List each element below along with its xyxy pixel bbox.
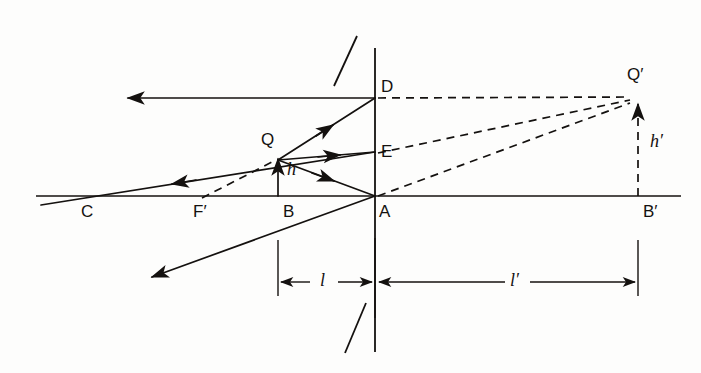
point-label-a: A [379, 203, 390, 220]
virtual-ray-a-to-qprime [378, 103, 630, 196]
optics-ray-diagram-canvas [0, 0, 701, 373]
point-label-q-prime: Q′ [627, 66, 643, 83]
lens-hatch-top-icon [334, 36, 357, 86]
point-label-b: B [283, 203, 294, 220]
virtual-ray-e-to-qprime [378, 100, 630, 153]
point-label-d: D [381, 78, 393, 95]
point-label-c: C [81, 203, 93, 220]
point-label-b-prime: B′ [643, 203, 658, 220]
lens-hatch-bottom-icon [345, 303, 366, 353]
ray-q-to-e-arrow [318, 155, 340, 157]
point-label-e: E [381, 143, 392, 160]
measure-label-h-prime: h′ [650, 132, 663, 150]
virtual-ray-fprime-to-q [202, 161, 274, 198]
virtual-ray-d-to-qprime [378, 97, 630, 98]
measure-label-l: l [320, 271, 325, 289]
ray-e-to-c-arrow [172, 180, 196, 184]
measure-label-h: h [287, 160, 296, 178]
measure-label-l-prime: l′ [510, 271, 519, 289]
ray-diagram-figure: C F′ B Q A E D B′ Q′ h h′ l l′ [0, 0, 701, 373]
ray-q-to-d-arrow [316, 125, 333, 136]
ray-a-outgoing-downleft [152, 196, 375, 277]
point-label-q: Q [261, 131, 274, 148]
point-label-f-prime: F′ [193, 203, 207, 220]
ray-q-to-a-arrow [312, 173, 334, 181]
